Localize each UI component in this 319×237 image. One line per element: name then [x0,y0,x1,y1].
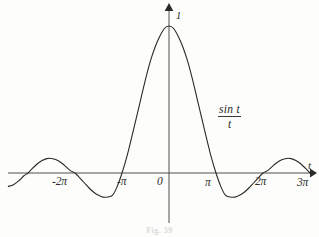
xtick-label-minus-2pi: -2π [52,176,67,188]
sinc-curve-path [8,26,310,197]
xtick-label-2pi: 2π [255,176,266,188]
function-label-sint-over-t: sin t t [218,103,241,131]
ytick-label-one: 1 [176,11,181,22]
function-numerator: sin t [218,103,241,117]
function-denominator: t [218,117,241,130]
figure-caption: Fig. 39 [0,226,319,235]
xtick-label-zero: 0 [157,176,163,188]
xtick-label-3pi: 3π [297,177,308,189]
xtick-label-minus-pi: -π [117,176,126,188]
y-axis-arrowhead [165,3,174,11]
xtick-label-pi: π [205,177,211,189]
axes-group [8,3,317,223]
figure-sinc-plot: -2π -π 0 π 2π 3π 1 t sin t t Fig. 39 [0,0,319,237]
plot-canvas [0,0,319,237]
x-axis-variable-label: t [308,160,311,171]
